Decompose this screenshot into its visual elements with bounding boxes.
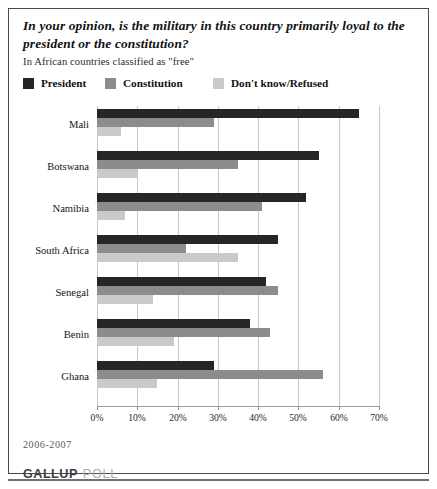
- y-axis-category-label: Namibia: [15, 203, 89, 214]
- gridline: [379, 106, 380, 406]
- bar: [97, 286, 278, 295]
- bar: [97, 319, 250, 328]
- bar: [97, 379, 157, 388]
- bar: [97, 337, 174, 346]
- category-label-wrap: Botswana: [15, 161, 91, 172]
- y-axis-category-label: Ghana: [15, 371, 89, 382]
- y-axis-category-label: South Africa: [15, 245, 89, 256]
- survey-date-range: 2006-2007: [23, 439, 72, 450]
- y-axis-category-label: Benin: [15, 329, 89, 340]
- bar: [97, 361, 214, 370]
- axis-tick: [379, 406, 380, 410]
- category-label-wrap: Ghana: [15, 371, 91, 382]
- category-label-wrap: South Africa: [15, 245, 91, 256]
- bar: [97, 235, 278, 244]
- bar: [97, 118, 214, 127]
- x-axis-tick-label: 70%: [370, 412, 388, 423]
- category-label-wrap: Benin: [15, 329, 91, 340]
- bar: [97, 202, 262, 211]
- bar: [97, 193, 306, 202]
- bar: [97, 277, 266, 286]
- bar: [97, 370, 323, 379]
- x-axis-tick-label: 10%: [128, 412, 146, 423]
- x-axis-tick-label: 30%: [209, 412, 227, 423]
- bar: [97, 127, 121, 136]
- y-axis-category-label: Botswana: [15, 161, 89, 172]
- x-axis-tick-label: 0%: [91, 412, 104, 423]
- y-axis-category-label: Senegal: [15, 287, 89, 298]
- bar: [97, 160, 238, 169]
- category-label-wrap: Senegal: [15, 287, 91, 298]
- gridline: [339, 106, 340, 406]
- x-axis-tick-label: 40%: [249, 412, 267, 423]
- category-label-wrap: Namibia: [15, 203, 91, 214]
- chart-frame: In your opinion, is the military in this…: [8, 8, 429, 474]
- footer-divider: [8, 479, 429, 481]
- poll-chart-page: In your opinion, is the military in this…: [0, 0, 437, 489]
- x-axis-tick-label: 60%: [330, 412, 348, 423]
- bar: [97, 295, 153, 304]
- x-axis-line: [97, 406, 379, 407]
- bar: [97, 244, 186, 253]
- bar: [97, 253, 238, 262]
- y-axis-category-label: Mali: [15, 119, 89, 130]
- x-axis-tick-label: 50%: [289, 412, 307, 423]
- category-label-wrap: Mali: [15, 119, 91, 130]
- bar: [97, 169, 137, 178]
- bar: [97, 211, 125, 220]
- bar: [97, 328, 270, 337]
- x-axis-tick-label: 20%: [169, 412, 187, 423]
- bar: [97, 109, 359, 118]
- bar: [97, 151, 319, 160]
- plot-area: 0%10%20%30%40%50%60%70%MaliBotswanaNamib…: [9, 9, 430, 475]
